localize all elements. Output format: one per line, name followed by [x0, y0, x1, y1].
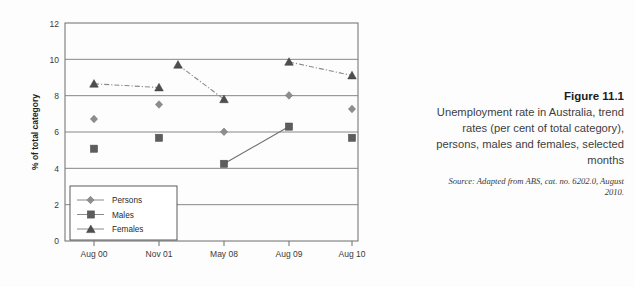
y-tick-label: 2	[54, 200, 59, 210]
y-tick-label: 0	[54, 236, 59, 246]
males-point	[90, 145, 97, 152]
x-tick-label: Nov 01	[146, 249, 173, 259]
males-point	[348, 134, 355, 141]
males-point	[285, 123, 292, 130]
figure-source: Source: Adapted from ABS, cat. no. 6202.…	[448, 176, 624, 199]
figure-caption: Unemployment rate in Australia, trend ra…	[424, 105, 624, 169]
chart-panel: 12 10 8 6 4 2 0 % of total category Aug …	[0, 0, 390, 287]
figure-container: 12 10 8 6 4 2 0 % of total category Aug …	[0, 0, 635, 287]
y-tick-label: 8	[54, 91, 59, 101]
y-tick-label: 4	[54, 164, 59, 174]
y-tick-label: 12	[50, 19, 60, 29]
males-point	[220, 160, 227, 167]
y-tick-label: 6	[54, 127, 59, 137]
legend-label-males: Males	[112, 211, 134, 220]
legend-label-persons: Persons	[112, 196, 142, 205]
x-tick-label: Aug 10	[339, 249, 366, 259]
x-tick-label: May 08	[210, 249, 238, 259]
y-tick-label: 10	[50, 55, 60, 65]
caption-panel: Figure 11.1 Unemployment rate in Austral…	[398, 0, 630, 287]
y-axis-title: % of total category	[30, 94, 40, 170]
legend-label-females: Females	[112, 225, 143, 234]
males-point	[155, 134, 162, 141]
x-tick-label: Aug 00	[81, 249, 108, 259]
x-tick-label: Aug 09	[276, 249, 303, 259]
unemployment-rate-chart: 12 10 8 6 4 2 0 % of total category Aug …	[0, 0, 390, 287]
legend-marker-males	[87, 211, 94, 218]
chart-legend: Persons Males Females	[70, 186, 177, 240]
x-axis-tick-marks	[94, 241, 352, 246]
figure-number: Figure 11.1	[564, 89, 624, 105]
x-axis-ticks: Aug 00 Nov 01 May 08 Aug 09 Aug 10	[81, 249, 366, 259]
y-axis-ticks: 12 10 8 6 4 2 0	[50, 19, 60, 247]
